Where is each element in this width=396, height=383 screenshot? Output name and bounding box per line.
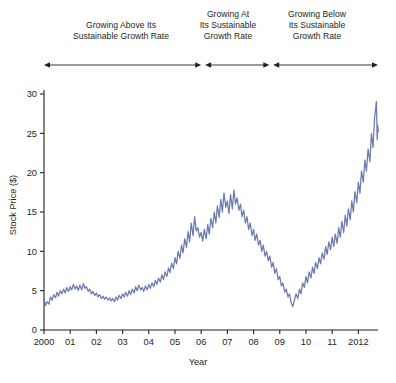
x-tick-label: 11 — [327, 337, 337, 347]
y-tick-label: 0 — [32, 325, 37, 335]
annotation-growing-below-line2: Its Sustainable — [262, 20, 372, 31]
annotation-growing-below: Growing Below Its Sustainable Growth Rat… — [262, 9, 372, 43]
annotation-growing-above-line1: Growing Above Its — [48, 20, 194, 31]
annotation-growing-at-line1: Growing At — [192, 9, 264, 20]
x-tick-label: 02 — [91, 337, 101, 347]
y-axis-title: Stock Price ($) — [8, 145, 18, 265]
data-line — [376, 102, 378, 140]
annotation-growing-at: Growing At Its Sustainable Growth Rate — [192, 9, 264, 43]
y-tick-label: 5 — [32, 286, 37, 296]
x-tick-label: 08 — [248, 337, 258, 347]
y-tick-label: 20 — [27, 168, 37, 178]
x-tick-label: 04 — [144, 337, 154, 347]
x-tick-label: 2012 — [348, 337, 369, 347]
annotation-growing-at-line2: Its Sustainable — [192, 20, 264, 31]
x-tick-label: 03 — [117, 337, 127, 347]
annotation-growing-above: Growing Above Its Sustainable Growth Rat… — [48, 20, 194, 42]
arrow-growing-at — [205, 62, 269, 68]
x-tick-label: 06 — [196, 337, 206, 347]
x-tick-label: 05 — [170, 337, 180, 347]
data-line — [44, 102, 376, 307]
chart-svg: 0510152025302000010203040506070809101120… — [0, 0, 396, 383]
stock-price-chart-figure: Growing Above Its Sustainable Growth Rat… — [0, 0, 396, 383]
x-tick-label: 07 — [222, 337, 232, 347]
arrow-growing-above — [44, 62, 201, 68]
arrow-growing-below — [273, 62, 378, 68]
annotation-growing-above-line2: Sustainable Growth Rate — [48, 31, 194, 42]
annotation-growing-below-line1: Growing Below — [262, 9, 372, 20]
x-tick-label: 01 — [65, 337, 75, 347]
x-tick-label: 2000 — [34, 337, 55, 347]
tick-label-layer: 0510152025302000010203040506070809101120… — [27, 89, 369, 347]
annotation-growing-below-line3: Growth Rate — [262, 31, 372, 42]
annotation-growing-at-line3: Growth Rate — [192, 31, 264, 42]
y-tick-label: 15 — [27, 207, 37, 217]
y-tick-label: 25 — [27, 129, 37, 139]
axis-layer — [40, 90, 378, 334]
y-tick-label: 30 — [27, 89, 37, 99]
annotation-arrow-layer — [44, 62, 378, 68]
y-tick-label: 10 — [27, 247, 37, 257]
x-tick-label: 10 — [301, 337, 311, 347]
x-axis-title: Year — [0, 357, 396, 367]
data-series-layer — [44, 102, 378, 307]
x-tick-label: 09 — [275, 337, 285, 347]
